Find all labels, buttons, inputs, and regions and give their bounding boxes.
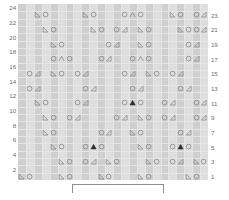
left-leaning-decrease-icon [137,114,145,121]
yarn-over-icon [153,70,161,77]
left-leaning-decrease-icon [184,173,192,180]
yarn-over-icon [74,70,82,77]
yarn-over-icon [129,85,137,92]
gridline-horizontal [18,136,208,137]
left-leaning-decrease-icon [50,143,58,150]
left-leaning-decrease-icon [42,26,50,33]
right-leaning-decrease-icon [34,85,42,92]
yarn-over-icon [184,143,192,150]
left-leaning-decrease-icon [89,26,97,33]
left-leaning-decrease-icon [42,129,50,136]
right-leaning-decrease-icon [184,129,192,136]
chart-grid [18,4,208,180]
yarn-over-icon [137,11,145,18]
row-label-right: 5 [211,144,226,151]
gridline-horizontal [18,63,208,64]
left-leaning-decrease-icon [58,158,66,165]
row-label-right: 23 [211,12,226,19]
gridline-horizontal [18,151,208,152]
right-leaning-decrease-icon [192,55,200,62]
yarn-over-icon [145,41,153,48]
right-leaning-decrease-icon [169,114,177,121]
row-label-left: 6 [2,136,16,143]
right-leaning-decrease-icon [89,158,97,165]
yarn-over-icon [145,173,153,180]
left-leaning-decrease-icon [81,11,89,18]
yarn-over-icon [58,41,66,48]
right-leaning-decrease-icon [169,99,177,106]
yarn-over-icon [161,114,169,121]
yarn-over-icon [113,114,121,121]
yarn-over-icon [50,55,58,62]
yarn-over-icon [26,173,34,180]
gridline-horizontal [18,48,208,49]
row-label-right: 13 [211,85,226,92]
row-label-left: 8 [2,122,16,129]
yarn-over-icon [145,26,153,33]
yarn-over-icon [97,129,105,136]
yarn-over-icon [66,55,74,62]
left-leaning-decrease-icon [145,158,153,165]
left-leaning-decrease-icon [192,158,200,165]
yarn-over-icon [184,41,192,48]
yarn-over-icon [169,143,177,150]
yarn-over-icon [50,26,58,33]
yarn-over-icon [137,129,145,136]
row-label-right: 11 [211,100,226,107]
left-leaning-decrease-icon [137,173,145,180]
left-leaning-decrease-icon [145,70,153,77]
yarn-over-icon [81,85,89,92]
row-label-right: 17 [211,56,226,63]
row-label-right: 9 [211,114,226,121]
yarn-over-icon [200,158,208,165]
knitting-chart: 24222018161412108642 2321191715131197531 [0,0,229,200]
yarn-over-icon [58,143,66,150]
yarn-over-icon [145,114,153,121]
yarn-over-icon [129,55,137,62]
central-double-decrease-icon [137,55,145,62]
right-leaning-decrease-icon [137,85,145,92]
left-leaning-decrease-icon [169,11,177,18]
yarn-over-icon [66,114,74,121]
right-leaning-decrease-icon [192,41,200,48]
left-leaning-decrease-icon [137,41,145,48]
left-leaning-decrease-icon [50,41,58,48]
right-leaning-decrease-icon [81,99,89,106]
yarn-over-icon [74,99,82,106]
bracket-tick-left [72,184,73,193]
yarn-over-icon [113,26,121,33]
yarn-over-icon [121,11,129,18]
yarn-over-icon [145,143,153,150]
left-leaning-decrease-icon [129,129,137,136]
right-leaning-decrease-icon [200,11,208,18]
left-leaning-decrease-icon [105,158,113,165]
right-leaning-decrease-icon [89,85,97,92]
yarn-over-icon [192,173,200,180]
row-label-left: 22 [2,19,16,26]
yarn-over-icon [176,85,184,92]
row-label-left: 4 [2,151,16,158]
left-leaning-decrease-icon [97,173,105,180]
right-leaning-decrease-icon [176,158,184,165]
yarn-over-icon [89,11,97,18]
row-label-right: 15 [211,70,226,77]
right-leaning-decrease-icon [105,55,113,62]
row-label-right: 19 [211,41,226,48]
row-label-left: 10 [2,107,16,114]
right-leaning-decrease-icon [113,41,121,48]
right-leaning-decrease-icon [121,114,129,121]
yarn-over-icon [58,70,66,77]
row-label-right: 1 [211,173,226,180]
left-leaning-decrease-icon [137,143,145,150]
filled-central-decrease-icon [176,143,184,150]
row-label-left: 12 [2,92,16,99]
yarn-over-icon [121,70,129,77]
yarn-over-icon [176,129,184,136]
central-double-decrease-icon [129,11,137,18]
row-label-left: 16 [2,63,16,70]
bracket-bar [72,184,164,185]
yarn-over-icon [192,11,200,18]
yarn-over-icon [137,99,145,106]
row-label-right: 3 [211,158,226,165]
left-leaning-decrease-icon [34,99,42,106]
